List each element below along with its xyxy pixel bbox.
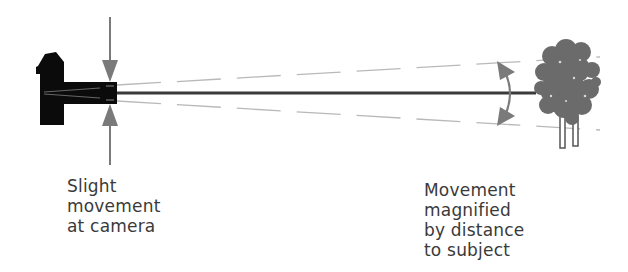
upper-dashed-line xyxy=(117,57,600,85)
caption-line: by distance xyxy=(424,220,525,240)
caption-magnified-movement: Movement magnified by distance to subjec… xyxy=(424,180,525,260)
caption-camera-movement: Slight movement at camera xyxy=(67,176,161,236)
lower-dashed-line xyxy=(117,101,600,130)
caption-line: movement xyxy=(67,196,161,216)
caption-line: at camera xyxy=(67,216,161,236)
caption-line: Slight xyxy=(67,176,161,196)
curved-arrow-down-head-icon xyxy=(497,107,515,126)
tree-icon xyxy=(534,39,601,148)
caption-line: to subject xyxy=(424,240,525,260)
caption-line: Movement xyxy=(424,180,525,200)
caption-line: magnified xyxy=(424,200,525,220)
up-arrow-head-icon xyxy=(102,104,118,126)
diagram-stage: Slight movement at camera Movement magni… xyxy=(0,0,628,272)
down-arrow-head-icon xyxy=(102,60,118,82)
